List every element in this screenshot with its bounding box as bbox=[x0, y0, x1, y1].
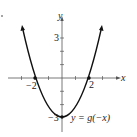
x-tick-label-neg2: −2 bbox=[26, 81, 37, 91]
y-axis-label: y bbox=[58, 11, 62, 21]
curve-arrow-left-icon bbox=[21, 25, 26, 31]
graph bbox=[0, 0, 137, 137]
y-tick-label-3: 3 bbox=[54, 33, 59, 43]
stray-dot bbox=[1, 15, 3, 17]
x-axis-label: x bbox=[121, 73, 125, 83]
y-tick-label-neg3: −3 bbox=[48, 113, 59, 123]
curve-arrow-right-icon bbox=[99, 25, 104, 31]
curve-label: y = g(−x) bbox=[71, 113, 110, 123]
x-tick-label-2: 2 bbox=[89, 80, 94, 90]
point-0-neg3 bbox=[60, 115, 63, 118]
